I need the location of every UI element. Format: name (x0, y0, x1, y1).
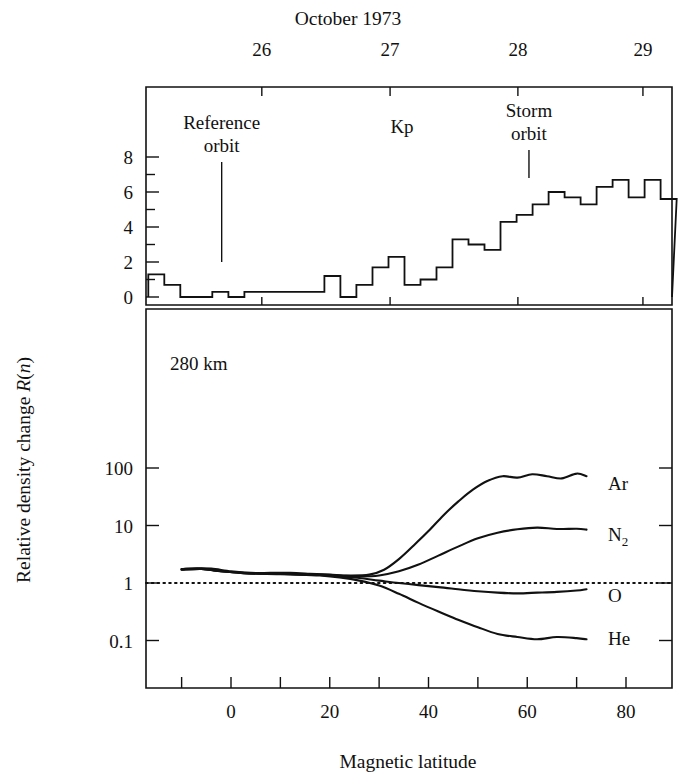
kp-y-tick-label: 8 (124, 147, 134, 168)
altitude-annotation: 280 km (170, 353, 228, 374)
x-axis-title: Magnetic latitude (340, 751, 477, 772)
species-curve-ar (182, 474, 587, 576)
density-y-tick-label: 0.1 (109, 631, 133, 652)
top-axis-title: October 1973 (295, 8, 402, 29)
storm-orbit-label-line2: orbit (511, 123, 548, 144)
kp-y-tick-label: 0 (124, 287, 134, 308)
species-curve-he (182, 569, 587, 639)
density-y-tick-label: 1 (124, 573, 134, 594)
density-x-tick-label: 60 (518, 701, 537, 722)
kp-y-tick-label: 2 (124, 252, 134, 273)
species-curves (182, 474, 587, 640)
storm-orbit-label-line1: Storm (506, 100, 553, 121)
kp-label: Kp (390, 116, 413, 137)
density-y-tick-labels: 1001010.1 (105, 458, 134, 652)
series-label-he: He (608, 628, 630, 649)
kp-y-tick-labels: 02468 (124, 147, 134, 308)
y-axis-title: Relative density change R(n) (13, 357, 35, 583)
kp-y-tick-label: 4 (124, 217, 134, 238)
kp-histogram (148, 180, 676, 297)
series-label-n2: N2 (608, 524, 628, 549)
date-tick-label: 26 (252, 39, 271, 60)
kp-y-tick-label: 6 (124, 182, 134, 203)
date-tick-label: 28 (508, 39, 527, 60)
density-x-tick-labels: 020406080 (226, 701, 635, 722)
date-tick-label: 27 (381, 39, 400, 60)
kp-x-ticks (262, 87, 643, 305)
reference-orbit-label-line2: orbit (204, 135, 241, 156)
reference-orbit-label-line1: Reference (183, 112, 260, 133)
series-label-o: O (608, 585, 622, 606)
density-x-ticks (182, 677, 626, 688)
density-x-tick-label: 20 (320, 701, 339, 722)
density-change-figure: October 1973 26272829 02468 Reference or… (0, 0, 696, 780)
density-y-tick-label: 100 (105, 458, 134, 479)
density-y-tick-label: 10 (114, 516, 133, 537)
density-x-tick-label: 80 (617, 701, 636, 722)
density-x-tick-label: 40 (419, 701, 438, 722)
density-y-ticks (146, 468, 672, 641)
date-tick-labels: 26272829 (252, 39, 652, 60)
figure-container: October 1973 26272829 02468 Reference or… (0, 0, 696, 780)
density-x-tick-label: 0 (226, 701, 236, 722)
series-label-ar: Ar (608, 473, 629, 494)
date-tick-label: 29 (633, 39, 652, 60)
